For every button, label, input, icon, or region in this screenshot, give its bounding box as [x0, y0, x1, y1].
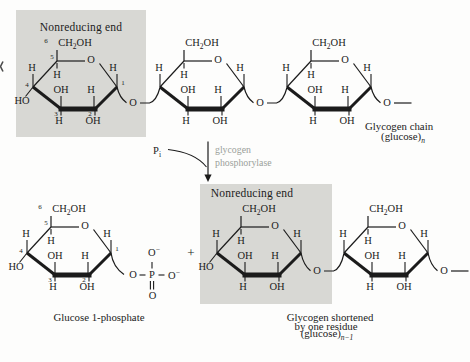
hydrogen-label: H: [363, 63, 371, 74]
hydrogen-label: H: [155, 63, 163, 74]
glycosidic-oxygen-label: O: [313, 266, 321, 277]
hydrogen-label: H: [81, 251, 89, 262]
hydroxyl-label: HO: [8, 262, 23, 273]
inorganic-phosphate-label: Pi: [153, 146, 161, 159]
ring-oxygen-label: O: [214, 55, 222, 66]
ch2oh-label: CH2OH: [242, 203, 276, 216]
hydroxyl-label: OH: [53, 85, 68, 96]
hydrogen-label: H: [339, 229, 347, 240]
hydroxyl-label: OH: [307, 85, 322, 96]
hydrogen-label: H: [398, 251, 406, 262]
label-layer: Nonreducing end Nonreducing end Pi glyco…: [0, 0, 470, 362]
hydrogen-label: H: [271, 251, 279, 262]
glucose-n-minus-1-caption: (glucose)n−1: [301, 328, 354, 342]
nonreducing-end-label-top: Nonreducing end: [40, 22, 123, 34]
carbon-number-label: 3: [48, 277, 52, 284]
ring-oxygen-label: O: [81, 221, 89, 232]
carbon-number-label: 1: [121, 80, 125, 87]
carbon-number-label: 6: [38, 203, 42, 210]
hydrogen-label: H: [293, 229, 301, 240]
hydrogen-label: H: [53, 69, 61, 80]
phosphate-ester-oxygen-label: O: [129, 270, 137, 281]
hydrogen-label: H: [212, 229, 220, 240]
hydrogen-label: H: [180, 69, 188, 80]
phosphorus-label: P: [149, 270, 155, 281]
phosphate-o-minus-right: O−: [168, 268, 180, 281]
carbon-number-label: 1: [115, 246, 119, 253]
hydrogen-label: H: [364, 235, 372, 246]
ring-oxygen-label: O: [87, 55, 95, 66]
glycosidic-oxygen-label: O: [440, 266, 448, 277]
hydrogen-label: H: [236, 63, 244, 74]
hydroxyl-label: OH: [237, 251, 252, 262]
hydrogen-label: H: [47, 235, 55, 246]
ch2oh-label: CH2OH: [52, 203, 86, 216]
ch2oh-label: CH2OH: [58, 37, 92, 50]
phosphate-carbonyl-oxygen-label: O: [149, 290, 157, 301]
hydroxyl-label: OH: [180, 85, 195, 96]
hydroxyl-label: OH: [339, 116, 354, 127]
hydrogen-label: H: [103, 229, 111, 240]
ch2oh-label: CH2OH: [185, 37, 219, 50]
hydrogen-label: H: [182, 116, 190, 127]
carbon-number-label: 2: [88, 111, 92, 118]
hydroxyl-label: OH: [212, 116, 227, 127]
glycosidic-oxygen-label: O: [256, 98, 264, 109]
carbon-number-label: 3: [54, 111, 58, 118]
hydrogen-label: H: [109, 63, 117, 74]
enzyme-name-line1: glycogen: [215, 145, 251, 155]
ring-oxygen-label: O: [271, 221, 279, 232]
hydrogen-label: H: [282, 63, 290, 74]
hydroxyl-label: OH: [269, 282, 284, 293]
hydrogen-label: H: [307, 69, 315, 80]
carbon-number-label: 4: [25, 82, 29, 89]
nonreducing-end-label-bottom: Nonreducing end: [211, 188, 294, 200]
ch2oh-label: CH2OH: [369, 203, 403, 216]
ch2oh-label: CH2OH: [312, 37, 346, 50]
hydrogen-label: H: [22, 229, 30, 240]
hydrogen-label: H: [420, 229, 428, 240]
hydrogen-label: H: [87, 85, 95, 96]
hydrogen-label: H: [366, 282, 374, 293]
hydroxyl-label: OH: [396, 282, 411, 293]
ring-oxygen-label: O: [341, 55, 349, 66]
glucose-1-phosphate-caption: Glucose 1-phosphate: [54, 312, 145, 323]
hydrogen-label: H: [214, 85, 222, 96]
glycogen-phosphorylase-reaction-figure: Nonreducing end Nonreducing end Pi glyco…: [0, 0, 470, 362]
hydroxyl-label: OH: [364, 251, 379, 262]
hydrogen-label: H: [237, 235, 245, 246]
hydroxyl-label: OH: [47, 251, 62, 262]
carbon-number-label: 5: [50, 54, 54, 61]
hydrogen-label: H: [28, 63, 36, 74]
phosphate-o-minus-top: O−: [148, 245, 160, 258]
enzyme-name-line2: phosphorylase: [215, 158, 272, 168]
carbon-number-label: 5: [44, 220, 48, 227]
hydroxyl-label: HO: [198, 262, 213, 273]
glycosidic-oxygen-label: O: [129, 98, 137, 109]
hydrogen-label: H: [309, 116, 317, 127]
ring-oxygen-label: O: [398, 221, 406, 232]
hydrogen-label: H: [239, 282, 247, 293]
plus-sign: +: [187, 246, 194, 259]
carbon-number-label: 2: [82, 277, 86, 284]
carbon-number-label: 4: [19, 248, 23, 255]
hydroxyl-label: HO: [14, 96, 29, 107]
glycosidic-oxygen-label: O: [383, 98, 391, 109]
hydrogen-label: H: [341, 85, 349, 96]
carbon-number-label: 6: [44, 37, 48, 44]
glucose-n-caption: (glucose)n: [381, 131, 425, 145]
